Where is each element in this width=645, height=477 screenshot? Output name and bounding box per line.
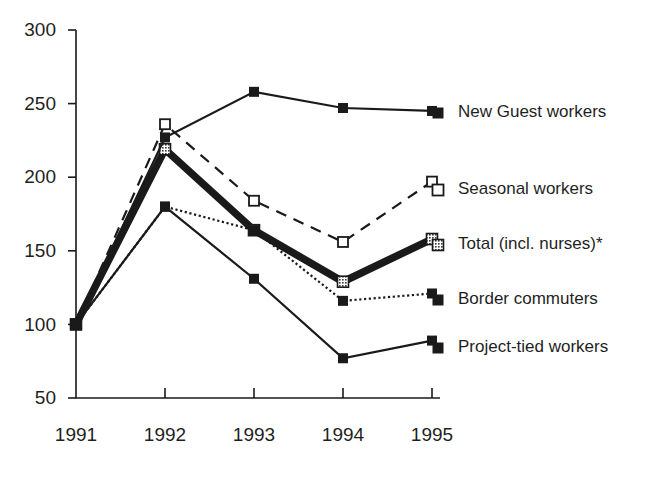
y-tick-label-300: 300 (2, 19, 56, 41)
x-tick-label-1993: 1993 (214, 424, 294, 446)
legend-label-border-commuters: Border commuters (458, 290, 598, 307)
y-tick-label-50: 50 (2, 387, 56, 409)
y-tick-label-200: 200 (2, 166, 56, 188)
legend-swatch-new-guest-workers (433, 108, 444, 119)
series-layer (71, 87, 438, 363)
x-tick-label-1995: 1995 (392, 424, 472, 446)
y-tick-label-150: 150 (2, 240, 56, 262)
x-tick-label-1992: 1992 (125, 424, 205, 446)
x-tick-label-1991: 1991 (36, 424, 116, 446)
data-point-marker (338, 296, 348, 306)
legend-markers (433, 108, 444, 354)
data-point-marker (249, 274, 259, 284)
chart-figure: 300 250 200 150 100 50 1991 1992 1993 19… (0, 0, 645, 477)
legend-label-new-guest-workers: New Guest workers (458, 103, 606, 120)
series-line (76, 92, 432, 325)
y-tick-label-100: 100 (2, 314, 56, 336)
data-point-marker (338, 353, 348, 363)
data-point-marker (160, 202, 170, 212)
legend-label-total-incl-nurses: Total (incl. nurses)* (458, 235, 603, 252)
data-point-marker (249, 196, 259, 206)
series-new-guest-workers (71, 87, 437, 330)
data-point-marker (338, 237, 348, 247)
data-point-marker (160, 132, 170, 142)
data-point-marker (249, 225, 259, 235)
series-total-incl-nurses (71, 144, 438, 330)
data-point-marker (71, 319, 81, 329)
legend-swatch-total-incl-nurses (433, 240, 444, 251)
legend-swatch-project-tied-workers (433, 343, 444, 354)
legend-swatch-seasonal-workers (433, 185, 444, 196)
y-tick-label-250: 250 (2, 93, 56, 115)
data-point-marker (338, 103, 348, 113)
x-tick-label-1994: 1994 (303, 424, 383, 446)
data-point-marker (160, 119, 170, 129)
legend-swatch-border-commuters (433, 295, 444, 306)
data-point-marker (249, 87, 259, 97)
legend-label-project-tied-workers: Project-tied workers (458, 338, 608, 355)
legend-label-seasonal-workers: Seasonal workers (458, 180, 593, 197)
data-point-marker (338, 276, 349, 287)
